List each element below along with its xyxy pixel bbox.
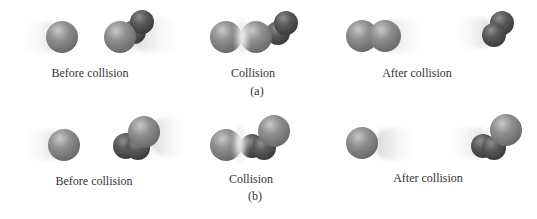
row-a-after-atom: [450, 11, 514, 48]
row-b-collision: [210, 115, 290, 167]
row-a-collision-label: Collision: [231, 66, 275, 81]
row-b-before-molecule: [113, 116, 190, 160]
row-a-before-label: Before collision: [52, 66, 129, 81]
panel-label-b: (b): [248, 189, 262, 204]
row-b-before-label: Before collision: [56, 174, 133, 189]
row-b-after-atom: [346, 127, 420, 160]
row-b-after-label: After collision: [393, 171, 463, 186]
panel-label-a: (a): [250, 84, 263, 99]
row-a-after-molecule: [346, 20, 430, 52]
row-a-after-label: After collision: [382, 66, 452, 81]
row-a: [18, 10, 514, 61]
row-b-after-molecule: [445, 114, 522, 160]
row-b-collision-label: Collision: [229, 172, 273, 187]
row-a-collision: [210, 11, 298, 61]
row-a-before-molecule: [104, 10, 185, 53]
row-b: [20, 114, 522, 167]
row-b-before-atom: [20, 129, 80, 161]
row-a-before-atom: [18, 21, 78, 53]
